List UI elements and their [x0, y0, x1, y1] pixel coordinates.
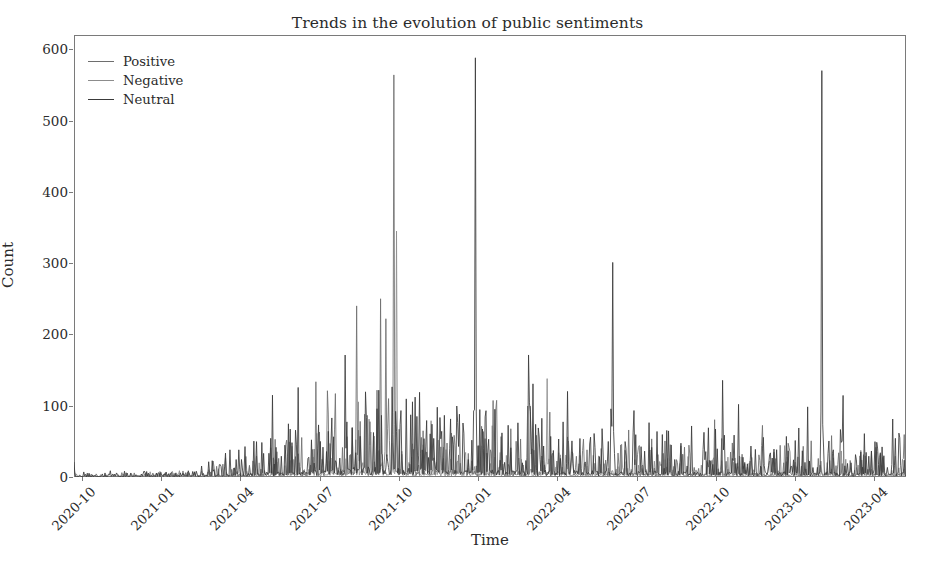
y-tick-mark: [69, 49, 73, 50]
y-axis-label: Count: [0, 205, 17, 325]
x-tick-mark: [399, 477, 400, 481]
x-tick-mark: [161, 477, 162, 481]
chart-legend: PositiveNegativeNeutral: [88, 48, 192, 111]
legend-item-neutral: Neutral: [88, 90, 192, 109]
y-tick-label: 0: [8, 469, 68, 485]
y-tick-label: 600: [8, 41, 68, 57]
x-tick-mark: [874, 477, 875, 481]
y-tick-label: 200: [8, 326, 68, 342]
legend-line-swatch: [88, 57, 114, 67]
y-tick-label: 500: [8, 113, 68, 129]
y-tick-mark: [69, 192, 73, 193]
legend-line-swatch: [88, 76, 114, 86]
y-tick-label: 400: [8, 184, 68, 200]
legend-item-label: Neutral: [123, 93, 175, 106]
y-tick-label: 300: [8, 255, 68, 271]
chart-plot-svg: [74, 35, 906, 477]
legend-item-label: Positive: [123, 55, 175, 68]
x-tick-mark: [240, 477, 241, 481]
legend-line-swatch: [88, 95, 114, 105]
x-axis-label: Time: [74, 531, 906, 549]
series-line-negative: [74, 231, 906, 477]
y-tick-mark: [69, 121, 73, 122]
y-tick-mark: [69, 263, 73, 264]
chart-title: Trends in the evolution of public sentim…: [0, 14, 935, 32]
legend-item-label: Negative: [123, 74, 183, 87]
y-tick-label: 100: [8, 398, 68, 414]
figure-canvas: Trends in the evolution of public sentim…: [0, 0, 935, 566]
x-tick-mark: [557, 477, 558, 481]
legend-item-positive: Positive: [88, 52, 192, 71]
x-tick-mark: [478, 477, 479, 481]
y-tick-mark: [69, 477, 73, 478]
series-line-neutral: [74, 58, 906, 477]
legend-item-negative: Negative: [88, 71, 192, 90]
y-tick-mark: [69, 406, 73, 407]
x-tick-mark: [82, 477, 83, 481]
x-tick-mark: [320, 477, 321, 481]
series-line-positive: [74, 75, 906, 477]
x-tick-mark: [716, 477, 717, 481]
x-tick-mark: [637, 477, 638, 481]
x-tick-mark: [795, 477, 796, 481]
y-tick-mark: [69, 334, 73, 335]
